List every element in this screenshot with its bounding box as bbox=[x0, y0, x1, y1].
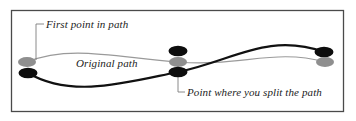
annotation-first-point-in-path: First point in path bbox=[46, 18, 128, 30]
path-split-figure: First point in path Original path Point … bbox=[0, 0, 356, 121]
anchor-end-gray bbox=[316, 57, 334, 67]
anchor-split-black-upper bbox=[169, 46, 188, 56]
anchor-split-black-lower bbox=[169, 67, 188, 77]
annotation-point-where-you-split-the-path: Point where you split the path bbox=[187, 86, 322, 98]
anchor-split-gray bbox=[169, 57, 187, 67]
annotation-original-path: Original path bbox=[76, 57, 138, 69]
anchor-end-black bbox=[315, 47, 334, 57]
anchor-start-black bbox=[19, 68, 38, 78]
anchor-start-gray bbox=[18, 57, 36, 67]
